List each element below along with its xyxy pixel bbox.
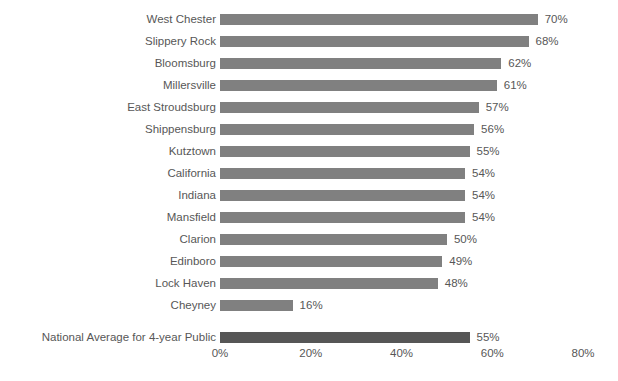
chart-row: Mansfield54% <box>0 212 618 223</box>
bar <box>220 102 479 113</box>
category-label: California <box>0 165 216 182</box>
bar-value-label: 16% <box>300 297 323 314</box>
bar-value-label: 55% <box>477 329 500 346</box>
category-label: Bloomsburg <box>0 55 216 72</box>
chart-row: California54% <box>0 168 618 179</box>
category-label: Lock Haven <box>0 275 216 292</box>
chart-row: Millersville61% <box>0 80 618 91</box>
bar-value-label: 68% <box>536 33 559 50</box>
bar-value-label: 61% <box>504 77 527 94</box>
category-label: Edinboro <box>0 253 216 270</box>
category-label: Kutztown <box>0 143 216 160</box>
chart-row: Shippensburg56% <box>0 124 618 135</box>
x-tick-label: 40% <box>390 345 413 361</box>
chart-row: West Chester70% <box>0 14 618 25</box>
chart-row: Edinboro49% <box>0 256 618 267</box>
bar-value-label: 48% <box>445 275 468 292</box>
chart-row: East Stroudsburg57% <box>0 102 618 113</box>
x-tick-label: 20% <box>299 345 322 361</box>
x-tick-label: 80% <box>571 345 594 361</box>
bar-chart: West Chester70%Slippery Rock68%Bloomsbur… <box>0 0 618 381</box>
bar <box>220 80 497 91</box>
bar-value-label: 54% <box>472 187 495 204</box>
category-label: Slippery Rock <box>0 33 216 50</box>
category-label: Indiana <box>0 187 216 204</box>
x-tick-label: 60% <box>481 345 504 361</box>
bar-value-label: 70% <box>545 11 568 28</box>
bar-value-label: 49% <box>449 253 472 270</box>
x-tick-label: 0% <box>212 345 229 361</box>
bar <box>220 58 501 69</box>
bar <box>220 124 474 135</box>
bar <box>220 36 529 47</box>
chart-row: Cheyney16% <box>0 300 618 311</box>
chart-row: Slippery Rock68% <box>0 36 618 47</box>
bar <box>220 190 465 201</box>
chart-row: Clarion50% <box>0 234 618 245</box>
category-label: Mansfield <box>0 209 216 226</box>
category-label: Clarion <box>0 231 216 248</box>
bar-value-label: 54% <box>472 209 495 226</box>
bar <box>220 14 538 25</box>
chart-row: Kutztown55% <box>0 146 618 157</box>
bar <box>220 278 438 289</box>
bar <box>220 256 442 267</box>
bar <box>220 168 465 179</box>
chart-row: Lock Haven48% <box>0 278 618 289</box>
chart-row: National Average for 4-year Public55% <box>0 332 618 343</box>
bar <box>220 332 470 343</box>
category-label: Cheyney <box>0 297 216 314</box>
category-label: National Average for 4-year Public <box>0 329 216 346</box>
bar <box>220 234 447 245</box>
bar-value-label: 55% <box>477 143 500 160</box>
bar <box>220 146 470 157</box>
bar <box>220 300 293 311</box>
bar-value-label: 57% <box>486 99 509 116</box>
bar-value-label: 56% <box>481 121 504 138</box>
x-axis: 0%20%40%60%80% <box>0 345 618 363</box>
category-label: Shippensburg <box>0 121 216 138</box>
chart-row: Indiana54% <box>0 190 618 201</box>
bar-value-label: 50% <box>454 231 477 248</box>
category-label: West Chester <box>0 11 216 28</box>
bar-value-label: 54% <box>472 165 495 182</box>
category-label: East Stroudsburg <box>0 99 216 116</box>
category-label: Millersville <box>0 77 216 94</box>
chart-row: Bloomsburg62% <box>0 58 618 69</box>
bar <box>220 212 465 223</box>
bar-value-label: 62% <box>508 55 531 72</box>
